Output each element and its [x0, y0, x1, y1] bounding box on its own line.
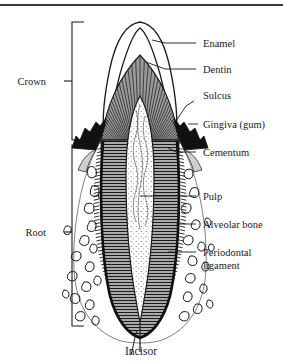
tooth-anatomy-figure: Crown Root Enamel Dentin Sulcus Gingiva …: [0, 0, 283, 363]
label-sulcus: Sulcus: [203, 90, 231, 101]
label-alveolar-bone: Alveolar bone: [203, 219, 263, 230]
tooth-diagram-svg: Crown Root Enamel Dentin Sulcus Gingiva …: [0, 0, 283, 363]
structure-labels: Enamel Dentin Sulcus Gingiva (gum) Cemen…: [203, 38, 266, 271]
label-gingiva: Gingiva (gum): [203, 119, 266, 131]
label-enamel: Enamel: [203, 38, 235, 49]
bracket-root: [64, 145, 84, 326]
label-pulp: Pulp: [203, 191, 222, 202]
bracket-label-root: Root: [26, 227, 47, 238]
bracket-labels: Crown Root: [17, 76, 46, 238]
figure-caption: Incisor: [125, 345, 157, 357]
bracket-crown: [64, 22, 84, 140]
label-cementum: Cementum: [203, 147, 249, 158]
label-periodontal: Periodontal: [203, 247, 251, 258]
label-ligament: ligament: [203, 260, 240, 271]
leader-dentin: [146, 62, 196, 69]
label-dentin: Dentin: [203, 64, 232, 75]
bracket-label-crown: Crown: [17, 76, 46, 87]
